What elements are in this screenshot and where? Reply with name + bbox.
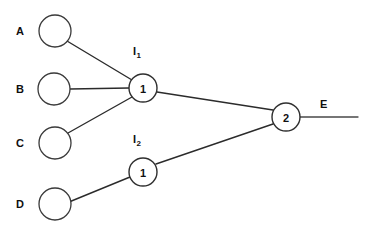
- gate-label-i2-subscript: 2: [137, 139, 141, 148]
- input-label-d: D: [16, 199, 24, 210]
- edge-a-to-i1: [67, 41, 132, 80]
- edge-d-to-i2: [69, 177, 130, 202]
- input-node-a[interactable]: [39, 15, 71, 47]
- input-node-b[interactable]: [38, 73, 70, 105]
- gate-node-group: [129, 74, 300, 186]
- gate-value-2: 2: [283, 112, 289, 124]
- diagram-canvas: 1 1 2 A B C D I1 I2 E: [0, 0, 368, 236]
- input-label-a: A: [16, 26, 24, 37]
- edge-i2-to-gate2: [156, 124, 273, 164]
- gate-label-i1-base: I: [133, 45, 136, 57]
- edge-group: [67, 41, 273, 202]
- gate-label-i1: I1: [133, 46, 141, 60]
- edge-c-to-i1: [68, 97, 132, 133]
- gate-value-i1: 1: [140, 83, 146, 95]
- gate-value-i2: 1: [140, 167, 146, 179]
- input-node-d[interactable]: [39, 188, 71, 220]
- edge-b-to-i1: [70, 88, 129, 89]
- input-label-b: B: [16, 84, 24, 95]
- diagram-svg-root: 1 1 2: [0, 0, 368, 236]
- input-node-c[interactable]: [39, 127, 71, 159]
- gate-label-i2-base: I: [133, 133, 136, 145]
- input-label-c: C: [16, 138, 24, 149]
- input-node-group: [38, 15, 71, 220]
- edge-i1-to-gate2: [157, 92, 273, 110]
- gate-label-i2: I2: [133, 134, 141, 148]
- output-label-e: E: [320, 99, 327, 110]
- gate-value-group: 1 1 2: [140, 83, 289, 179]
- gate-label-i1-subscript: 1: [137, 51, 141, 60]
